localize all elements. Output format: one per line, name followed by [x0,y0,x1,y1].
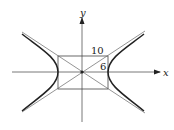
hyperbola-right-branch [108,34,144,111]
x-axis-label: x [163,67,169,78]
hyperbola-left-branch [22,34,58,111]
height-label: 6 [100,61,106,72]
origin-point [80,70,83,73]
hyperbola-diagram: y x 10 6 [0,0,174,130]
width-label: 10 [91,45,104,56]
y-axis-label: y [79,7,86,18]
